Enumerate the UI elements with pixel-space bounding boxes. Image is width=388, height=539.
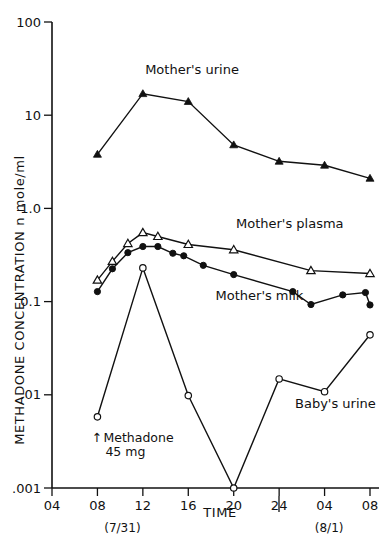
marker-filled-circle (170, 250, 176, 256)
y-tick-label: 1.0 (20, 201, 41, 216)
x-tick-label: 16 (180, 498, 197, 513)
y-tick-label: 100 (16, 15, 41, 30)
series-label: Mother's urine (145, 62, 239, 77)
y-tick-label: .01 (20, 387, 41, 402)
marker-filled-circle (340, 292, 346, 298)
marker-open-circle (94, 414, 100, 420)
marker-open-circle (140, 265, 146, 271)
methadone-concentration-chart: METHADONE CONCENTRATION n mole/ml 100101… (0, 0, 388, 539)
x-tick-label: 04 (44, 498, 61, 513)
y-tick-label: .001 (12, 481, 41, 496)
marker-open-circle (185, 392, 191, 398)
marker-filled-circle (231, 271, 237, 277)
date-marker-label: (7/31) (104, 521, 140, 535)
x-tick-label: 08 (362, 498, 379, 513)
marker-filled-circle (200, 262, 206, 268)
series-label: Mother's plasma (236, 216, 344, 231)
marker-open-circle (276, 376, 282, 382)
marker-filled-circle (155, 243, 161, 249)
marker-filled-circle (308, 301, 314, 307)
date-marker-label: (8/1) (315, 521, 344, 535)
marker-open-circle (321, 388, 327, 394)
marker-filled-circle (140, 243, 146, 249)
series-1 (93, 90, 374, 182)
series-line (97, 94, 370, 179)
series-label: Mother's milk (216, 288, 304, 303)
annotations-layer: ↑Methadone45 mg (91, 430, 173, 459)
dose-annotation-line2: 45 mg (105, 444, 145, 459)
marker-filled-circle (181, 253, 187, 259)
x-tick-label: 12 (135, 498, 152, 513)
x-axis-title: TIME (202, 505, 237, 520)
x-tick-label: 08 (89, 498, 106, 513)
marker-open-circle (231, 485, 237, 491)
marker-filled-circle (94, 289, 100, 295)
marker-filled-circle (362, 289, 368, 295)
marker-open-triangle (124, 239, 132, 246)
marker-open-circle (367, 332, 373, 338)
marker-filled-circle (367, 302, 373, 308)
figure-container: METHADONE CONCENTRATION n mole/ml 100101… (0, 0, 388, 539)
date-markers: (7/31)(8/1) (104, 521, 343, 535)
x-tick-label: 04 (316, 498, 333, 513)
y-tick-label: 10 (24, 108, 41, 123)
marker-filled-circle (109, 266, 115, 272)
y-tick-label: 0.1 (20, 294, 41, 309)
marker-filled-circle (125, 250, 131, 256)
series-labels: Mother's urineMother's plasmaMother's mi… (145, 62, 376, 412)
dose-annotation-line1: Methadone (103, 430, 173, 445)
series-label: Baby's urine (295, 396, 376, 411)
marker-filled-triangle (139, 90, 147, 97)
marker-open-triangle (139, 228, 147, 235)
dose-arrow-icon: ↑ (91, 430, 101, 445)
